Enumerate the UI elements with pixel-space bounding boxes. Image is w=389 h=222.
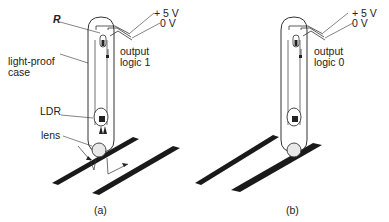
label-ldr-a: LDR bbox=[40, 106, 61, 117]
black-bar-left-b bbox=[195, 135, 279, 185]
label-supply-ground-a: 0 V bbox=[160, 18, 176, 29]
caption-b: (b) bbox=[286, 205, 299, 216]
label-output-logic-b: logic 0 bbox=[314, 57, 344, 68]
label-lens-a: lens bbox=[41, 130, 60, 141]
label-output-logic-a: logic 1 bbox=[120, 57, 150, 68]
label-case-2-a: case bbox=[8, 67, 30, 78]
label-supply-ground-b: 0 V bbox=[352, 18, 368, 29]
caption-a: (a) bbox=[94, 205, 107, 216]
label-resistor-a: R bbox=[53, 14, 61, 25]
lens-a bbox=[92, 143, 106, 157]
figure-b bbox=[195, 13, 353, 192]
black-bar-right-b bbox=[231, 143, 322, 192]
lens-b bbox=[287, 143, 301, 157]
figure-a bbox=[52, 13, 180, 195]
